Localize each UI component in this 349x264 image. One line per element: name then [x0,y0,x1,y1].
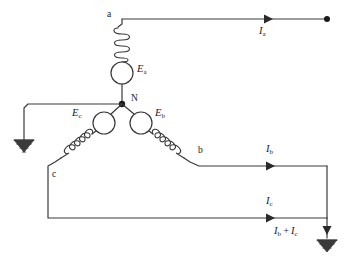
circuit-schematic-svg [0,0,349,264]
wire-phase-c-line [48,158,327,218]
current-label-sum-subscript-1: b [278,230,282,238]
source-label-Eb: Eb [155,108,165,119]
current-arrow-Ib-plus-Ic [323,226,332,235]
terminal-dot-phase-a [324,16,330,22]
current-label-Ia: Ia [259,26,266,37]
circuit-diagram: a b c N Ea Eb Ec Ia Ib Ic Ib + Ic [0,0,349,264]
terminal-label-c: c [52,170,56,180]
inductor-phase-c [61,129,93,158]
current-label-Ib-plus-Ic: Ib + Ic [274,226,298,237]
source-symbol-Ea [111,62,133,84]
wire-phase-a-kink [118,19,122,27]
source-label-Eb-subscript: b [161,112,165,120]
current-arrow-Ia [264,15,273,24]
ground-symbol-return [317,240,337,252]
current-label-Ic-subscript: c [270,200,273,208]
terminal-label-a: a [107,10,111,20]
source-label-Ec-subscript: c [78,112,81,120]
wire-neutral-to-source-c [111,104,122,114]
terminal-label-b: b [198,146,203,156]
current-label-Ia-symbol: I [259,25,263,36]
current-label-Ic: Ic [266,196,273,207]
current-label-sum-operator: + [281,226,291,236]
inductor-phase-a [114,28,130,62]
current-label-sum-subscript-2: c [295,230,298,238]
current-label-Ia-subscript: a [263,30,266,38]
current-label-Ib: Ib [266,144,273,155]
current-label-Ic-symbol: I [266,195,270,206]
source-label-Ec: Ec [72,108,82,119]
current-arrow-Ic [266,214,275,223]
ground-symbol-neutral [14,140,34,152]
wire-neutral-to-source-b [122,104,134,114]
source-label-Ea-subscript: a [143,68,146,76]
wire-phase-b-line [184,158,327,166]
terminal-label-neutral: N [131,94,138,104]
current-label-Ib-symbol: I [266,143,270,154]
source-label-Ea: Ea [137,64,147,75]
inductor-phase-b [152,129,184,158]
current-arrow-Ib [266,162,275,171]
current-label-sum-symbol-1: I [274,225,278,236]
current-label-Ib-subscript: b [270,148,274,156]
